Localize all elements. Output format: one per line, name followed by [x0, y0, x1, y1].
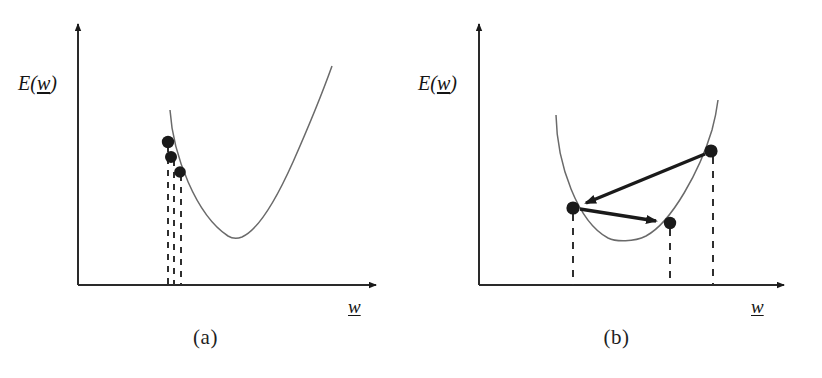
figure-root: E(w) w (a) [0, 0, 822, 378]
y-axis-label-b: E(w) [418, 72, 457, 95]
iterate-dot-b-1 [704, 144, 717, 157]
y-axis-label-b-head: E( [418, 72, 437, 94]
iterate-dot-a-2 [165, 151, 177, 163]
step-arrow-b-1 [586, 154, 705, 203]
y-axis-label-a: E(w) [18, 72, 57, 95]
caption-b: (b) [411, 325, 822, 350]
panel-a-plot [0, 0, 411, 378]
panel-a: E(w) w (a) [0, 0, 411, 378]
step-arrow-b-2 [580, 209, 656, 221]
x-axis-label-a: w [348, 296, 361, 318]
y-axis-label-a-head: E( [18, 72, 37, 94]
iterate-dot-a-3 [174, 166, 186, 178]
y-axis-label-a-tail: ) [50, 72, 57, 94]
error-curve-a [170, 66, 332, 238]
y-axis-label-b-vector: w [437, 72, 450, 94]
panel-b: E(w) w (b) [411, 0, 822, 378]
iterate-dot-b-2 [566, 201, 579, 214]
caption-a: (a) [0, 325, 411, 350]
panel-b-plot [411, 0, 822, 378]
iterate-dot-a-1 [162, 136, 174, 148]
x-axis-label-b: w [751, 296, 764, 318]
y-axis-label-a-vector: w [37, 72, 50, 94]
y-axis-label-b-tail: ) [450, 72, 457, 94]
iterate-dot-b-3 [664, 217, 676, 229]
